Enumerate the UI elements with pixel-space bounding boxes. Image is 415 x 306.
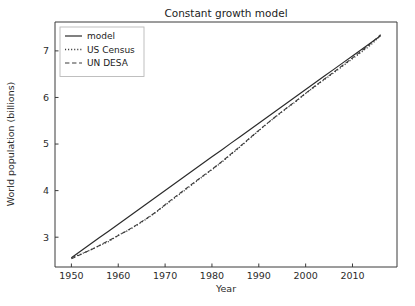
y-tick-label: 6 xyxy=(43,92,49,103)
x-tick-label: 1960 xyxy=(106,270,130,281)
y-axis-label: World population (billions) xyxy=(5,82,16,207)
y-tick-label: 4 xyxy=(43,185,49,196)
x-tick-label: 2010 xyxy=(340,270,364,281)
chart-title: Constant growth model xyxy=(164,7,287,19)
y-tick-label: 7 xyxy=(43,45,49,56)
chart-figure: Constant growth model 195019601970198019… xyxy=(0,0,415,306)
x-tick-label: 2000 xyxy=(294,270,318,281)
y-tick-label: 3 xyxy=(43,232,49,243)
legend-label-us-census: US Census xyxy=(87,45,135,55)
x-tick-label: 1950 xyxy=(59,270,83,281)
x-axis-label: Year xyxy=(215,283,236,294)
x-tick-label: 1990 xyxy=(247,270,271,281)
legend-label-un-desa: UN DESA xyxy=(87,58,129,68)
chart-canvas: Constant growth model 195019601970198019… xyxy=(0,0,415,306)
x-tick-label: 1970 xyxy=(153,270,177,281)
y-tick-label: 5 xyxy=(43,138,49,149)
x-tick-label: 1980 xyxy=(200,270,224,281)
chart-legend[interactable]: modelUS CensusUN DESA xyxy=(60,27,144,77)
legend-label-model: model xyxy=(87,31,115,41)
